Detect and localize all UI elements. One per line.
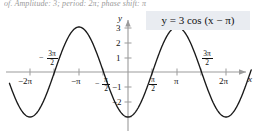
fraction-numerator: π: [101, 76, 111, 84]
x-tick-label-2pi: 2π: [219, 76, 228, 86]
y-axis-label: y: [118, 13, 122, 23]
fraction-denominator: 2: [45, 59, 59, 67]
x-tick-label-neg-3pi-over-2: − 3π 2: [45, 50, 59, 67]
y-tick-label-3: 3: [116, 23, 121, 33]
x-tick-label-3pi-over-2: 3π 2: [200, 50, 214, 67]
y-tick-label-neg-1: −1: [112, 82, 122, 92]
x-tick-label-pi: π: [174, 76, 179, 86]
x-tick-label-neg-pi-over-2: − π 2: [101, 76, 111, 93]
y-tick-label-1: 1: [116, 53, 121, 63]
fraction-numerator: 3π: [45, 50, 59, 58]
x-axis: [6, 69, 246, 75]
equation-label: y = 3 cos (x − π): [146, 11, 250, 30]
y-tick-label-2: 2: [116, 38, 121, 48]
x-tick-label-neg-pi: −π: [71, 76, 81, 86]
fraction-minus-sign: −: [95, 80, 100, 88]
fraction-minus-sign: −: [39, 54, 44, 62]
fraction-numerator: π: [148, 76, 158, 84]
fraction-numerator: 3π: [200, 50, 214, 58]
fraction-denominator: 2: [101, 85, 111, 93]
fraction-denominator: 2: [148, 85, 158, 93]
x-axis-label: x: [248, 74, 252, 84]
figure-container: of. Amplitude: 3; period: 2π; phase shif…: [0, 0, 259, 131]
y-axis: [125, 20, 130, 131]
fraction-denominator: 2: [200, 59, 214, 67]
x-tick-label-pi-over-2: π 2: [148, 76, 158, 93]
x-tick-label-neg-2pi: −2π: [18, 76, 32, 86]
y-tick-label-neg-2: −2: [112, 97, 122, 107]
